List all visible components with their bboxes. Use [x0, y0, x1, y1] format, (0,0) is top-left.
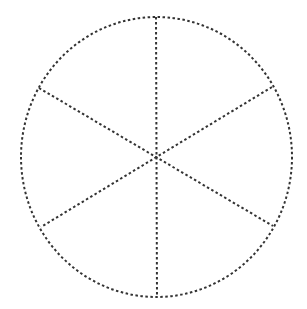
- section-dividers: [39, 17, 273, 297]
- divided-circle-diagram: [0, 0, 307, 309]
